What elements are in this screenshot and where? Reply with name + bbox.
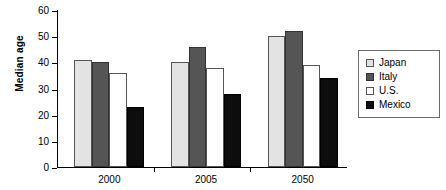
bar-mexico-2000 [127,107,145,167]
x-category-label: 2005 [195,174,217,185]
bar-us-2000 [109,73,127,167]
legend-swatch-icon [366,101,374,109]
chart-legend: JapanItalyU.S.Mexico [358,50,440,118]
bar-italy-2050 [285,31,303,167]
legend-label: Mexico [379,100,411,110]
plot-area: 0102030405060 200020052050 [57,10,347,168]
legend-item-us[interactable]: U.S. [366,84,433,98]
y-tick-label: 20 [38,111,49,121]
bar-italy-2005 [189,47,207,167]
x-category-label: 2050 [292,174,314,185]
legend-label: Japan [379,58,406,68]
x-axis-line [57,167,347,168]
bar-us-2050 [303,65,321,167]
bar-japan-2050 [268,36,286,167]
x-group-separator [250,168,251,172]
bar-chart: Median age 0102030405060 200020052050 Ja… [0,0,446,190]
y-tick-label: 0 [43,163,49,173]
y-tick-label: 40 [38,58,49,68]
bar-mexico-2050 [320,78,338,167]
legend-swatch-icon [366,59,374,67]
legend-item-italy[interactable]: Italy [366,70,433,84]
legend-item-mexico[interactable]: Mexico [366,98,433,112]
legend-item-japan[interactable]: Japan [366,56,433,70]
bar-us-2005 [206,68,224,167]
legend-label: Italy [379,72,397,82]
bar-japan-2000 [74,60,92,167]
legend-swatch-icon [366,87,374,95]
y-tick-label: 60 [38,6,49,16]
y-tick-label: 30 [38,85,49,95]
x-category-label: 2000 [98,174,120,185]
legend-swatch-icon [366,73,374,81]
x-group-separator [154,168,155,172]
y-tick-label: 50 [38,32,49,42]
bar-mexico-2005 [224,94,242,167]
legend-label: U.S. [379,86,398,96]
bar-italy-2000 [92,62,110,167]
bar-japan-2005 [171,62,189,167]
y-tick-label: 10 [38,137,49,147]
bar-series-container [57,10,347,167]
y-tick-mark [52,168,57,169]
y-axis-title: Median age [14,19,25,109]
